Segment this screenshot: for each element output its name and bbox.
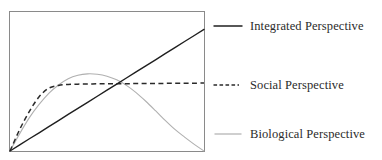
legend-label-biological: Biological Perspective xyxy=(250,127,365,141)
light-line-swatch xyxy=(213,128,243,140)
legend-label-integrated: Integrated Perspective xyxy=(250,19,364,33)
legend-item-biological: Biological Perspective xyxy=(213,126,365,142)
legend-item-social: Social Perspective xyxy=(213,77,344,93)
legend: Integrated Perspective Social Perspectiv… xyxy=(213,0,382,160)
solid-line-swatch xyxy=(213,20,243,32)
dashed-line-swatch xyxy=(213,79,243,91)
series-social xyxy=(10,83,204,151)
series-biological xyxy=(10,74,204,151)
figure-container: Integrated Perspective Social Perspectiv… xyxy=(0,0,382,160)
legend-item-integrated: Integrated Perspective xyxy=(213,18,364,34)
plot-area xyxy=(9,11,205,152)
series-integrated xyxy=(10,29,204,151)
legend-label-social: Social Perspective xyxy=(250,78,344,92)
plot-curves xyxy=(9,11,205,152)
